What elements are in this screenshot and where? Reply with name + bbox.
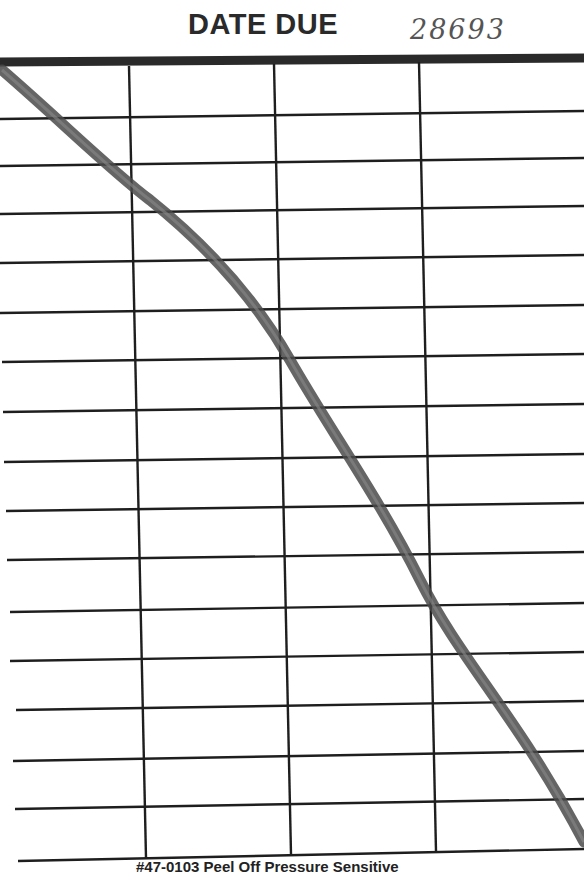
top-rule xyxy=(0,58,584,62)
date-grid xyxy=(0,0,584,872)
card-footer: #47-0103 Peel Off Pressure Sensitive xyxy=(136,858,399,872)
row-lines xyxy=(0,111,584,861)
